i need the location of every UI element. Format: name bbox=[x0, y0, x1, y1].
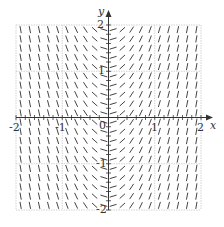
y-tick-label-neg2: -2 bbox=[96, 204, 107, 215]
y-tick-label-pos2: 2 bbox=[97, 19, 104, 30]
x-tick-label-neg2: -2 bbox=[9, 122, 20, 133]
x-tick-label-pos2: 2 bbox=[197, 122, 204, 133]
axes bbox=[16, 10, 213, 210]
x-tick-label-pos1: 1 bbox=[151, 122, 158, 133]
x-axis-label: x bbox=[210, 120, 216, 131]
y-axis-label: y bbox=[98, 6, 104, 17]
y-tick-label-pos1: 1 bbox=[98, 65, 105, 76]
origin-label: 0 bbox=[99, 120, 106, 131]
x-tick-label-neg1: -1 bbox=[55, 122, 66, 133]
slope-field-plot bbox=[0, 0, 224, 227]
y-tick-label-neg1: -1 bbox=[96, 158, 107, 169]
